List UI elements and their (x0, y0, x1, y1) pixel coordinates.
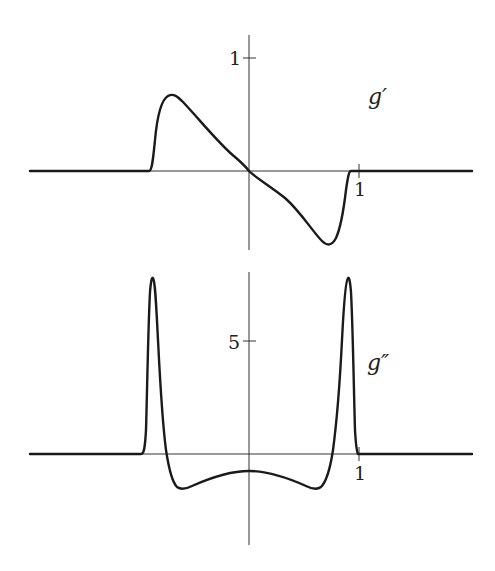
plot-g-double-prime: 5 1 g″ (30, 272, 472, 545)
plot-g-prime: 1 1 g′ (30, 35, 472, 250)
x-tick-label-bottom: 1 (354, 462, 366, 484)
function-label-g-prime: g′ (368, 84, 387, 109)
curve-g-prime (30, 95, 472, 245)
curve-g-double-prime (30, 278, 472, 489)
y-tick-label-top: 1 (229, 47, 241, 69)
x-tick-label-top: 1 (354, 178, 366, 200)
y-tick-label-bottom: 5 (228, 331, 240, 353)
figure: 1 1 g′ 5 1 g″ (0, 0, 495, 571)
function-label-g-double-prime: g″ (367, 350, 390, 375)
